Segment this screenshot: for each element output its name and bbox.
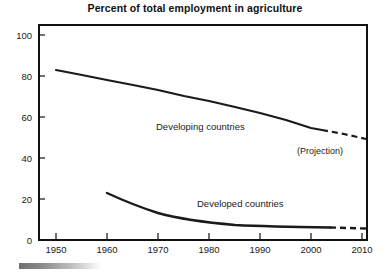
x-axis-label-1950: 1950 [36,244,76,255]
annotation-developing-countries: Developing countries [156,121,245,132]
annotation-projection: (Projection) [297,146,343,156]
x-axis-label-1970: 1970 [138,244,178,255]
y-axis-label-60: 60 [2,112,32,123]
x-axis-label-2000: 2000 [291,244,331,255]
series-line-developing-projection [322,130,366,139]
x-axis-ticks [56,233,362,240]
y-axis-label-40: 40 [2,153,32,164]
x-axis-label-1990: 1990 [240,244,280,255]
y-axis-label-20: 20 [2,194,32,205]
annotation-developed-countries: Developed countries [197,198,284,209]
x-axis-label-2010: 2010 [342,244,382,255]
x-axis-label-1980: 1980 [189,244,229,255]
y-axis-label-0: 0 [2,235,32,246]
y-axis-label-80: 80 [2,71,32,82]
plot-svg [0,0,390,277]
y-axis-ticks [38,35,45,240]
y-axis-label-100: 100 [2,30,32,41]
x-axis-label-1960: 1960 [87,244,127,255]
chart-figure: Percent of total employment in agricultu… [0,0,390,277]
footer-gradient-bar [19,263,101,269]
series-line-developed-projection [330,228,366,229]
